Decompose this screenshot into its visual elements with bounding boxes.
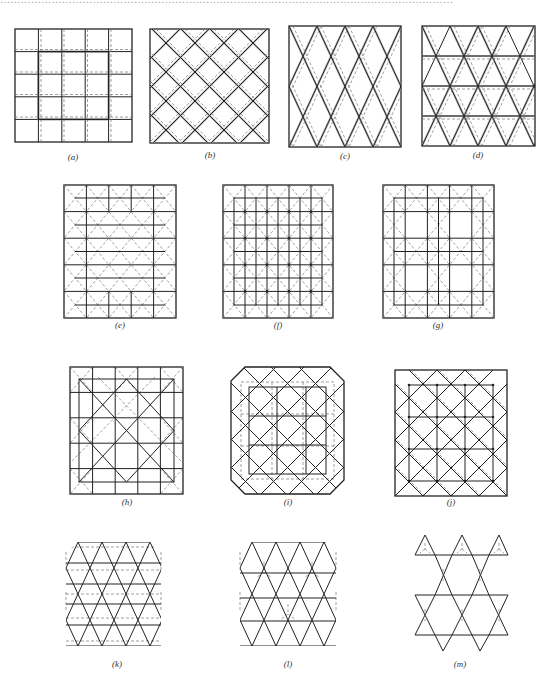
panel-label-e: (e) [100,320,140,330]
grid-diagram-l [240,542,337,647]
grid-diagram-a [15,29,133,143]
top-text-fragment: …………………………………………………………………………………………………………… [0,0,547,8]
panel-b [150,29,270,144]
panel-d [422,26,536,147]
panel-k [66,542,162,647]
top-text-line: …………………………………………………………………………………………………………… [0,0,547,5]
panel-label-h: (h) [107,497,147,507]
panel-label-d: (d) [458,150,498,160]
panel-label-c: (c) [325,151,365,161]
panel-g [383,185,495,319]
grid-diagram-j [395,370,508,497]
panel-label-l: (l) [268,659,308,669]
grid-diagram-k [66,542,162,647]
grid-diagram-b [150,29,270,144]
grid-diagram-h [70,367,184,495]
panel-label-b: (b) [190,150,230,160]
panel-label-i: (i) [268,497,308,507]
panel-m [415,535,508,651]
grid-diagram-m [415,535,508,651]
panel-label-j: (j) [431,497,471,507]
panel-label-k: (k) [97,659,137,669]
panel-j [395,370,508,497]
grid-diagram-g [383,185,495,319]
panel-l [240,542,337,647]
grid-diagram-e [64,185,177,319]
panel-a [15,29,133,143]
panel-label-a: (a) [53,152,93,162]
panel-label-g: (g) [418,320,458,330]
panel-c [289,26,402,148]
panel-label-f: (f) [258,320,298,330]
panel-i [231,367,345,495]
grid-diagram-i [231,367,345,495]
panel-label-m: (m) [440,659,480,669]
panel-f [223,185,334,319]
grid-diagram-f [223,185,334,319]
panel-e [64,185,177,319]
grid-diagram-c [289,26,402,148]
panel-h [70,367,184,495]
grid-diagram-d [422,26,536,147]
